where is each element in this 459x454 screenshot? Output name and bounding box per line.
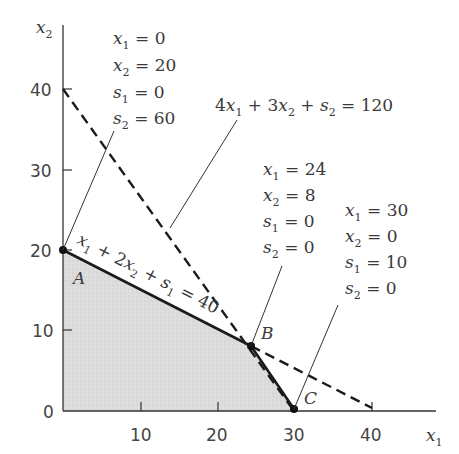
constraint-2-label: 4x1 + 3x2 + s2 = 120 (215, 95, 393, 119)
svg-text:x2 = 0: x2 = 0 (345, 226, 397, 250)
svg-text:s2 = 0: s2 = 0 (345, 278, 397, 302)
svg-text:x2 = 8: x2 = 8 (263, 185, 315, 209)
lp-diagram: 40 30 20 10 0 10 20 30 40 x2 x1 A B C x1… (0, 0, 459, 454)
y-tick-30: 30 (30, 161, 52, 181)
y-tick-40: 40 (30, 80, 52, 100)
vertex-b-label: B (260, 323, 274, 343)
y-axis-label: x2 (36, 17, 53, 41)
svg-text:x1 = 24: x1 = 24 (263, 159, 326, 183)
y-tick-10: 10 (32, 321, 54, 341)
feasible-region (63, 250, 294, 411)
vertex-b-values: x1 = 24 x2 = 8 s1 = 0 s2 = 0 (263, 159, 326, 261)
svg-text:s1 = 0: s1 = 0 (113, 82, 165, 106)
vertex-c-values: x1 = 30 x2 = 0 s1 = 10 s2 = 0 (345, 200, 408, 302)
y-tick-20: 20 (30, 241, 52, 261)
vertex-a-values: x1 = 0 x2 = 20 s1 = 0 s2 = 60 (113, 28, 176, 132)
x-axis-label: x1 (426, 425, 443, 449)
x-tick-20: 20 (206, 425, 228, 445)
svg-text:s1 = 10: s1 = 10 (345, 252, 407, 276)
svg-text:x1 = 30: x1 = 30 (345, 200, 408, 224)
svg-text:x1 = 0: x1 = 0 (113, 28, 165, 52)
leader-constraint-2 (170, 120, 237, 228)
svg-text:s2 = 0: s2 = 0 (263, 237, 315, 261)
x-tick-40: 40 (360, 425, 382, 445)
vertex-a-label: A (71, 268, 85, 288)
x-tick-10: 10 (130, 425, 152, 445)
svg-text:s1 = 0: s1 = 0 (263, 211, 315, 235)
x-tick-30: 30 (283, 425, 305, 445)
y-tick-0: 0 (43, 402, 54, 422)
vertex-c-label: C (304, 388, 317, 408)
svg-text:x2 = 20: x2 = 20 (113, 55, 176, 79)
svg-text:s2 = 60: s2 = 60 (113, 108, 175, 132)
